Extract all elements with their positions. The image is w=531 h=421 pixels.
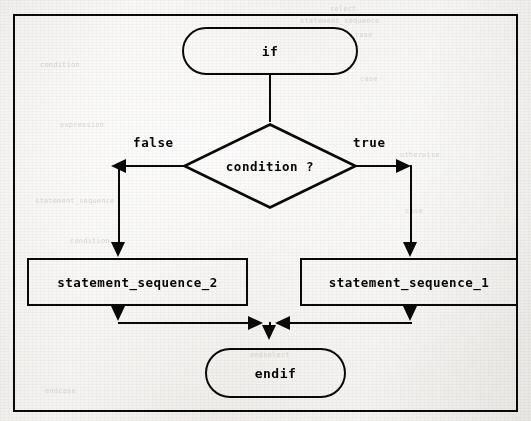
edge-label-false: false <box>133 135 174 150</box>
start-terminal-label: if <box>262 44 279 59</box>
edge-label-true: true <box>353 135 386 150</box>
arrowhead-into-endif <box>262 325 276 340</box>
decision-condition[interactable]: condition ? <box>182 122 358 210</box>
process-box-label: statement_sequence_1 <box>329 275 490 290</box>
arrowhead-true-box-exit <box>403 306 417 321</box>
edge-if-to-decision <box>269 75 272 122</box>
end-terminal-endif[interactable]: endif <box>205 348 346 398</box>
process-box-statement-sequence-2[interactable]: statement_sequence_2 <box>27 258 248 306</box>
start-terminal-if[interactable]: if <box>182 27 358 75</box>
arrowhead-merge-from-left <box>248 316 263 330</box>
edge-false-vertical <box>118 165 121 243</box>
diagram-ink-layer: if condition ? false true statement_sequ… <box>0 0 531 421</box>
arrowhead-merge-from-right <box>275 316 290 330</box>
scanned-page: select statement_sequence case condition… <box>0 0 531 421</box>
arrowhead-false-box-exit <box>111 306 125 321</box>
edge-merge-rail-right <box>285 322 412 325</box>
decision-label: condition ? <box>182 122 358 210</box>
edge-true-vertical <box>410 165 413 243</box>
process-box-label: statement_sequence_2 <box>57 275 218 290</box>
process-box-statement-sequence-1[interactable]: statement_sequence_1 <box>300 258 518 306</box>
end-terminal-label: endif <box>255 366 297 381</box>
arrowhead-true-into-box <box>403 242 417 257</box>
edge-merge-rail-left <box>118 322 255 325</box>
arrowhead-false-into-box <box>111 242 125 257</box>
edge-decision-to-false-horizontal <box>126 165 184 168</box>
